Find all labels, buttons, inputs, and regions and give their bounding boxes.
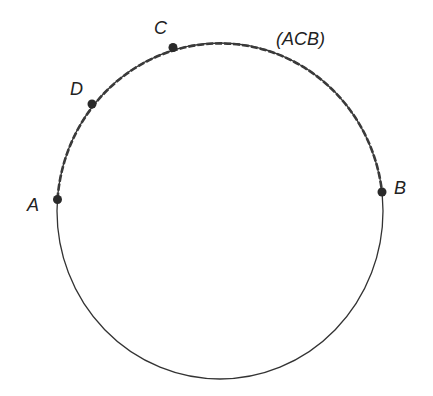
- points-group: [53, 43, 387, 204]
- point-label-a: A: [26, 195, 39, 215]
- point-label-d: D: [70, 79, 83, 99]
- point-label-b: B: [394, 178, 406, 198]
- circle: [57, 43, 383, 379]
- point-label-c: C: [154, 18, 168, 38]
- point-a: [53, 195, 62, 204]
- point-d: [88, 100, 97, 109]
- arc-label: (ACB): [276, 29, 325, 49]
- circle-diagram: A D C B (ACB): [0, 0, 433, 396]
- arc-acb: [58, 43, 383, 199]
- point-b: [378, 188, 387, 197]
- point-c: [169, 43, 178, 52]
- diagram-canvas: A D C B (ACB): [0, 0, 433, 396]
